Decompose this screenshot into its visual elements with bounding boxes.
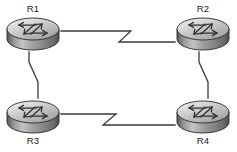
link-r3-r4 bbox=[61, 114, 175, 125]
link-r1-r3 bbox=[29, 52, 38, 98]
node-label-r4: R4 bbox=[197, 135, 210, 146]
router-icon bbox=[177, 101, 229, 133]
diagram-svg: R1 R2 R3 R4 bbox=[0, 0, 237, 152]
router-icon bbox=[177, 18, 229, 50]
node-r4[interactable]: R4 bbox=[177, 101, 229, 146]
nodes-layer: R1 R2 R3 R4 bbox=[7, 3, 229, 146]
link-r2-r4 bbox=[199, 52, 208, 98]
node-label-r2: R2 bbox=[197, 3, 210, 14]
network-topology-diagram: R1 R2 R3 R4 bbox=[0, 0, 237, 152]
node-label-r3: R3 bbox=[27, 135, 40, 146]
router-icon bbox=[7, 101, 59, 133]
node-label-r1: R1 bbox=[27, 3, 40, 14]
node-r1[interactable]: R1 bbox=[7, 3, 59, 50]
node-r2[interactable]: R2 bbox=[177, 3, 229, 50]
router-icon bbox=[7, 18, 59, 50]
node-r3[interactable]: R3 bbox=[7, 101, 59, 146]
link-r1-r2 bbox=[61, 31, 175, 42]
